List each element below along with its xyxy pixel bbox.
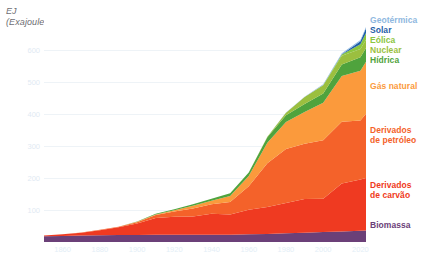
- y-axis-tick-label: 300: [27, 142, 40, 151]
- x-axis-tick-label: 2020: [352, 245, 369, 254]
- plot-area: 100200300400500600 186018801900192019401…: [44, 18, 366, 242]
- x-axis-tick-label: 1880: [91, 245, 108, 254]
- x-axis-tick-label: 1960: [240, 245, 257, 254]
- legend: GeotérmicaSolarEólicaNuclearHídricaGás n…: [370, 0, 447, 265]
- y-axis-tick-label: 200: [27, 174, 40, 183]
- legend-item: Derivados de carvão: [370, 181, 412, 200]
- y-axis-tick-label: 600: [27, 46, 40, 55]
- y-axis-tick-label: 400: [27, 110, 40, 119]
- energy-stacked-area-chart: EJ (Exajoules) 100200300400500600 186018…: [0, 0, 447, 265]
- x-axis-tick-label: 1860: [54, 245, 71, 254]
- legend-item: Derivados de petróleo: [370, 126, 416, 145]
- x-axis-tick-label: 1940: [203, 245, 220, 254]
- stacked-areas: [44, 18, 366, 242]
- x-axis-tick-label: 1980: [278, 245, 295, 254]
- legend-item: Hídrica: [370, 56, 399, 66]
- legend-item: Gás natural: [370, 82, 417, 92]
- x-axis-tick-label: 1920: [166, 245, 183, 254]
- area-svg: [44, 18, 366, 242]
- legend-item: Biomassa: [370, 221, 411, 231]
- y-axis-tick-label: 500: [27, 78, 40, 87]
- y-axis-tick-label: 100: [27, 206, 40, 215]
- x-axis-tick-label: 1900: [129, 245, 146, 254]
- x-axis-tick-label: 2000: [315, 245, 332, 254]
